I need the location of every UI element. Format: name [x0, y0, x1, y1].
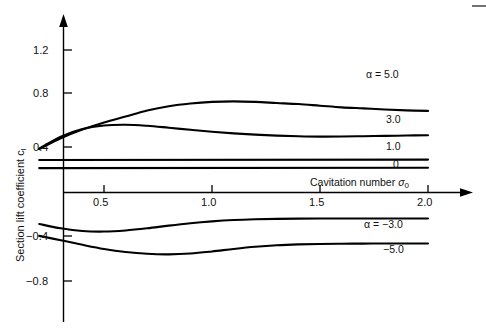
curve-3-0 [39, 125, 428, 149]
curve-label-alpha-1: 1.0 [386, 140, 401, 152]
y-tick-label-0-4: 0.4 [33, 141, 49, 153]
curve-label-alpha-3: 3.0 [386, 113, 401, 125]
y-axis-title-text: Section lift coefficient c [14, 150, 26, 262]
x-axis-title-subscript: 0 [404, 181, 408, 190]
x-tick-label-1-5: 1.5 [309, 196, 325, 208]
y-axis-ticks [64, 50, 73, 281]
curve-5-0 [39, 236, 428, 254]
figure-cavitation-lift-chart: 1.2 0.8 0.4 −0.4 −0.8 0.5 1.0 1.5 2.0 Se… [0, 0, 486, 333]
y-tick-label-minus-0-4: −0.4 [26, 230, 48, 242]
x-tick-label-2-0: 2.0 [417, 196, 433, 208]
y-tick-label-minus-0-8: −0.8 [26, 275, 48, 287]
curve-label-alpha-0: 0 [393, 158, 399, 170]
x-axis-title-text: Cavitation number [310, 176, 398, 188]
y-axis-title-subscript: l [19, 149, 28, 151]
y-axis-title: Section lift coefficient cl [14, 149, 28, 262]
curve-label-alpha-minus-3: α = −3.0 [364, 218, 403, 230]
x-axis-title: Cavitation number σ0 [310, 176, 409, 190]
chart-canvas [0, 0, 486, 333]
curve-label-alpha-minus-5: −5.0 [383, 243, 404, 255]
x-tick-label-1-0: 1.0 [201, 196, 217, 208]
curve-label-alpha-5: α = 5.0 [366, 68, 399, 80]
y-tick-label-1-2: 1.2 [33, 44, 49, 56]
x-axis [64, 188, 474, 197]
y-tick-label-0-8: 0.8 [33, 87, 49, 99]
x-tick-label-0-5: 0.5 [93, 196, 109, 208]
